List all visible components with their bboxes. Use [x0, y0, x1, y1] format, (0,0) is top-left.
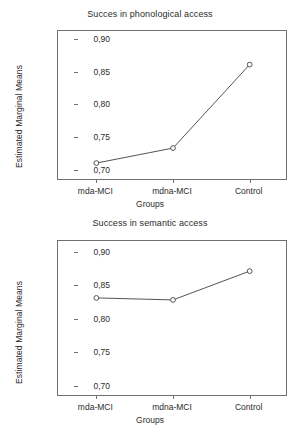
x-tick-label: Control: [235, 402, 262, 412]
data-point-marker: [247, 269, 252, 274]
x-axis-title: Groups: [0, 415, 300, 425]
data-point-marker: [171, 146, 176, 151]
plot-area: 0,700,750,800,850,90: [57, 240, 287, 396]
x-tick-label: mdna-MCI: [152, 186, 192, 196]
y-axis-title: Estimated Marginal Means: [14, 65, 24, 168]
data-point-marker: [247, 62, 252, 67]
x-axis-title: Groups: [0, 199, 300, 209]
series-line: [96, 271, 249, 300]
plot-area: 0,700,750,800,850,90: [57, 30, 287, 180]
x-tick-label: Control: [235, 186, 262, 196]
x-tick-label: mdna-MCI: [152, 402, 192, 412]
chart-semantic-access: Success in semantic access Estimated Mar…: [0, 212, 300, 434]
series-plot: [58, 31, 288, 181]
series-plot: [58, 241, 288, 397]
x-tick-label: mda-MCI: [78, 402, 113, 412]
data-point-marker: [94, 296, 99, 301]
chart-phonological-access: Succes in phonological access Estimated …: [0, 0, 300, 212]
data-point-marker: [94, 161, 99, 166]
x-tick-label: mda-MCI: [78, 186, 113, 196]
data-point-marker: [171, 298, 176, 303]
chart-title: Success in semantic access: [0, 218, 300, 228]
chart-title: Succes in phonological access: [0, 9, 300, 19]
y-axis-title: Estimated Marginal Means: [14, 281, 24, 384]
